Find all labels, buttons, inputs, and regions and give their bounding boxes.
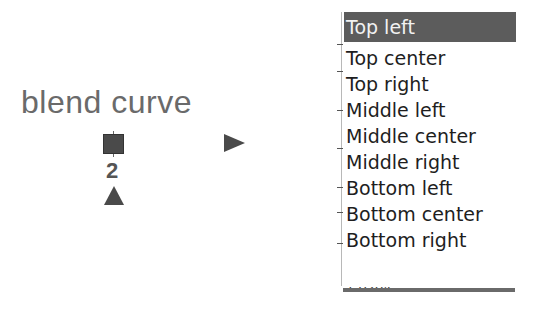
dropdown-bottom-border [343,288,515,292]
tick-mark [337,243,343,244]
option-label: Bottom center [346,203,483,225]
node-title: blend curve [21,84,192,121]
dropdown-option-middle-right[interactable]: Middle right [344,149,516,175]
option-label: Top left [346,16,415,38]
tick-mark [337,187,343,188]
dropdown-option-middle-left[interactable]: Middle left [344,97,516,123]
option-label: Bottom right [346,229,466,251]
port-index-label: 2 [106,160,118,182]
triangle-up-icon[interactable] [104,186,124,205]
tick-mark [337,148,343,149]
dropdown-option-top-center[interactable]: Top center [344,45,516,71]
dropdown-option-top-right[interactable]: Top right [344,71,516,97]
option-label: Middle center [346,125,476,147]
dropdown-option-top-left[interactable]: Top left [344,12,516,42]
option-label: Middle right [346,151,459,173]
square-port-icon[interactable] [103,134,124,154]
dropdown-option-middle-center[interactable]: Middle center [344,123,516,149]
tick-mark [337,110,343,111]
option-label: Bottom left [346,177,453,199]
triangle-right-icon[interactable] [224,134,245,152]
option-label: Middle left [346,99,446,121]
dropdown-option-bottom-left[interactable]: Bottom left [344,175,516,201]
option-label: Top center [346,47,445,69]
option-label: Top right [346,73,429,95]
node-canvas: blend curve 2 Top left Top center Top ri… [0,0,534,312]
alignment-dropdown-list[interactable]: Top left Top center Top right Middle lef… [341,12,516,286]
tick-mark [337,71,343,72]
dropdown-option-bottom-right[interactable]: Bottom right [344,227,516,253]
tick-mark [337,212,343,213]
dropdown-option-bottom-center[interactable]: Bottom center [344,201,516,227]
tick-mark [337,44,343,45]
